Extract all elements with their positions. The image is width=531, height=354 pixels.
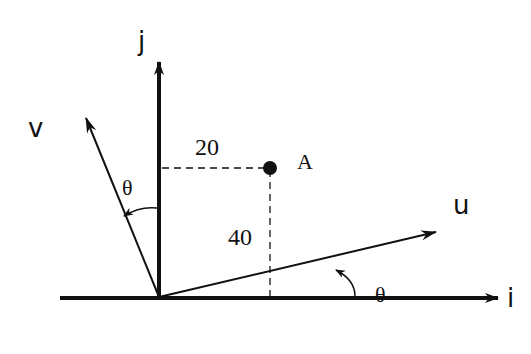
point-a-dot	[263, 161, 277, 175]
theta-label-u: θ	[375, 282, 386, 307]
v-vector-label: v	[28, 113, 43, 143]
j-axis-label: j	[137, 26, 145, 56]
u-vector-label: u	[453, 190, 469, 220]
u-vector	[159, 232, 436, 297]
horizontal-distance-label: 20	[195, 134, 219, 160]
i-axis-label: i	[507, 283, 514, 313]
angle-arc-u	[336, 270, 355, 296]
theta-label-v: θ	[122, 175, 133, 200]
coordinate-diagram: j i v u A 20 40 θ θ	[0, 0, 531, 354]
vertical-distance-label: 40	[228, 224, 252, 250]
angle-arc-v	[124, 208, 157, 216]
point-a-label: A	[297, 149, 313, 174]
